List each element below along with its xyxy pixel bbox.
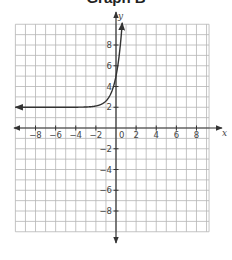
y-tick-label: −8 [99, 206, 112, 216]
y-tick-label: 2 [107, 102, 112, 112]
origin-label: 0 [119, 130, 124, 140]
coordinate-plane: xy −8−6−4−2024688642−2−4−6−8 [0, 0, 232, 260]
x-tick-label: 4 [154, 130, 159, 140]
x-tick-label: 2 [133, 130, 138, 140]
y-tick-label: 6 [107, 61, 112, 71]
x-tick-label: 6 [174, 130, 179, 140]
y-axis-label: y [117, 11, 124, 21]
y-tick-label: −6 [99, 185, 112, 195]
y-tick-label: −2 [99, 144, 112, 154]
x-tick-label: −2 [90, 130, 103, 140]
x-tick-label: 8 [194, 130, 199, 140]
x-tick-label: −4 [69, 130, 82, 140]
x-tick-label: −8 [29, 130, 42, 140]
y-tick-label: 4 [107, 82, 112, 92]
x-axis-label: x [222, 128, 227, 138]
y-tick-label: −4 [99, 165, 112, 175]
y-tick-label: 8 [107, 40, 112, 50]
x-tick-label: −6 [49, 130, 62, 140]
